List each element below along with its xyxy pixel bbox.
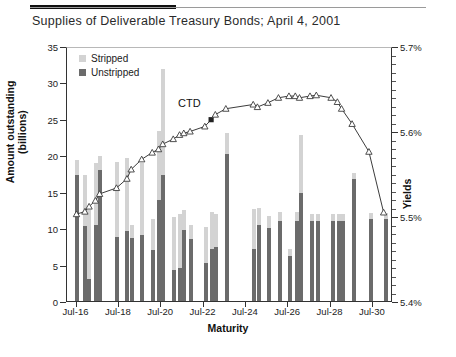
right-axis-minor-tick (392, 277, 396, 278)
right-axis-tick-label: 5.7% (400, 42, 434, 53)
x-axis-tick-label: Jul-24 (232, 306, 258, 317)
x-axis-tick-mark (160, 302, 161, 307)
y-axis-title-line2: (billions) (16, 110, 28, 154)
y-axis-tick-label: 30 (32, 78, 58, 89)
legend-item: Unstripped (79, 66, 139, 79)
right-axis-minor-tick (392, 98, 396, 99)
y-axis-tick-label: 0 (32, 297, 58, 308)
y-axis-tick-label: 5 (32, 260, 58, 271)
legend-item-label: Stripped (91, 53, 128, 64)
y-axis-tick-mark (60, 120, 66, 121)
right-axis-minor-tick (392, 226, 396, 227)
yield-marker (349, 121, 355, 127)
y-axis-title-line1: Amount outstanding (4, 81, 16, 184)
right-axis-minor-tick (392, 166, 396, 167)
right-axis-minor-tick (392, 243, 396, 244)
right-axis-tick-mark (392, 47, 398, 48)
right-axis-minor-tick (392, 73, 396, 74)
y-axis-tick-mark (60, 47, 66, 48)
yield-line-layer (67, 48, 391, 301)
x-axis-tick-mark (203, 302, 204, 307)
legend-item: Stripped (79, 52, 139, 65)
x-axis-tick-label: Jul-30 (359, 306, 385, 317)
yield-marker (313, 92, 319, 98)
right-axis-tick-label: 5.4% (400, 297, 434, 308)
y-axis-tick-label: 35 (32, 42, 58, 53)
y-axis-tick-mark (60, 302, 66, 303)
right-axis-minor-tick (392, 124, 396, 125)
legend-item-label: Unstripped (91, 67, 139, 78)
x-axis-tick-label: Jul-22 (190, 306, 216, 317)
ctd-annotation: CTD (178, 97, 201, 109)
yield-marker (139, 156, 145, 162)
yield-marker (250, 101, 256, 107)
x-axis-tick-label: Jul-16 (63, 306, 89, 317)
right-axis-minor-tick (392, 158, 396, 159)
x-axis-tick-mark (372, 302, 373, 307)
y-axis-tick-mark (60, 83, 66, 84)
yield-marker (170, 136, 176, 142)
yield-marker (265, 100, 271, 106)
y-axis-tick-mark (60, 266, 66, 267)
right-axis-minor-tick (392, 141, 396, 142)
x-axis-tick-label: Jul-26 (274, 306, 300, 317)
right-axis-minor-tick (392, 234, 396, 235)
legend-swatch-unstripped (79, 69, 86, 76)
y-axis-tick-label: 25 (32, 114, 58, 125)
right-axis-minor-tick (392, 294, 396, 295)
right-axis-tick-label: 5.6% (400, 127, 434, 138)
y-axis-tick-label: 10 (32, 224, 58, 235)
x-axis-tick-label: Jul-28 (317, 306, 343, 317)
chart-legend: StrippedUnstripped (79, 52, 139, 80)
x-axis-tick-mark (245, 302, 246, 307)
right-axis-minor-tick (392, 183, 396, 184)
right-axis-minor-tick (392, 268, 396, 269)
plot-area (66, 47, 392, 302)
right-axis-minor-tick (392, 200, 396, 201)
x-axis-tick-mark (287, 302, 288, 307)
x-axis-tick-label: Jul-20 (147, 306, 173, 317)
right-axis-minor-tick (392, 285, 396, 286)
right-axis-tick-label: 5.5% (400, 212, 434, 223)
right-axis-minor-tick (392, 251, 396, 252)
right-axis-minor-tick (392, 81, 396, 82)
yield-marker (160, 141, 166, 147)
right-axis-tick-mark (392, 132, 398, 133)
right-axis-minor-tick (392, 64, 396, 65)
y-axis-tick-mark (60, 156, 66, 157)
yield-marker-ctd (209, 117, 214, 122)
right-axis-tick-mark (392, 302, 398, 303)
x-axis-tick-mark (118, 302, 119, 307)
x-axis-tick-label: Jul-18 (105, 306, 131, 317)
header-rule-thin (30, 7, 426, 8)
yield-marker (380, 209, 386, 215)
yield-marker (334, 99, 340, 105)
right-axis-minor-tick (392, 149, 396, 150)
right-axis-minor-tick (392, 90, 396, 91)
chart-figure: Supplies of Deliverable Treasury Bonds; … (0, 0, 456, 357)
y-axis-tick-label: 15 (32, 187, 58, 198)
right-axis-minor-tick (392, 192, 396, 193)
x-axis-title: Maturity (0, 322, 456, 334)
yield-marker (124, 176, 130, 182)
yield-marker (149, 149, 155, 155)
right-axis-minor-tick (392, 175, 396, 176)
yield-marker (212, 111, 218, 117)
y-axis-tick-mark (60, 193, 66, 194)
y-axis-title: Amount outstanding (billions) (4, 57, 28, 207)
right-axis-minor-tick (392, 260, 396, 261)
right-axis-tick-mark (392, 217, 398, 218)
right-axis-minor-tick (392, 56, 396, 57)
right-axis-minor-tick (392, 115, 396, 116)
yield-curve-line (76, 95, 383, 214)
right-axis-minor-tick (392, 209, 396, 210)
y-axis-tick-mark (60, 229, 66, 230)
chart-title: Supplies of Deliverable Treasury Bonds; … (32, 14, 432, 28)
x-axis-tick-mark (330, 302, 331, 307)
x-axis-tick-mark (76, 302, 77, 307)
yield-marker (338, 106, 344, 112)
yield-marker (92, 197, 98, 203)
yield-marker (366, 149, 372, 155)
right-axis-minor-tick (392, 107, 396, 108)
y-axis-tick-label: 20 (32, 151, 58, 162)
